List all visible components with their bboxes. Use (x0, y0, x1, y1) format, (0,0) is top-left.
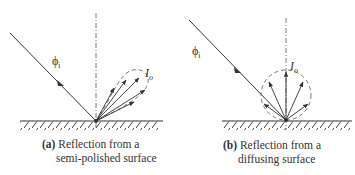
panel-b (189, 18, 352, 130)
reflected-rays (264, 72, 308, 120)
caption-b: (b) Reflection from a (223, 138, 321, 152)
reflected-rays (96, 78, 145, 121)
incident-angle-label-a: ϕi (52, 54, 61, 70)
intensity-label-a: Io (145, 66, 153, 82)
intensity-label-b: Io (290, 59, 298, 75)
caption-line1: Reflection from a (240, 139, 321, 151)
caption-a-line2: semi-polished surface (56, 151, 157, 165)
caption-line1: Reflection from a (58, 138, 139, 150)
caption-b-line2: diffusing surface (238, 152, 315, 166)
caption-line2: semi-polished surface (56, 152, 157, 164)
intensity-subscript: o (294, 66, 298, 75)
caption-tag: (a) (42, 138, 55, 150)
panel-a (10, 13, 163, 130)
intensity-subscript: o (149, 73, 153, 82)
surface-hatch (20, 122, 160, 130)
caption-tag: (b) (223, 139, 237, 151)
incident-angle-label-b: ϕi (192, 44, 201, 60)
caption-a: (a) Reflection from a (42, 137, 139, 151)
incident-arrow-icon (57, 80, 64, 86)
phi-subscript: i (58, 61, 60, 70)
incident-ray (10, 33, 96, 121)
phi-subscript: i (198, 51, 200, 60)
caption-line2: diffusing surface (238, 153, 315, 165)
